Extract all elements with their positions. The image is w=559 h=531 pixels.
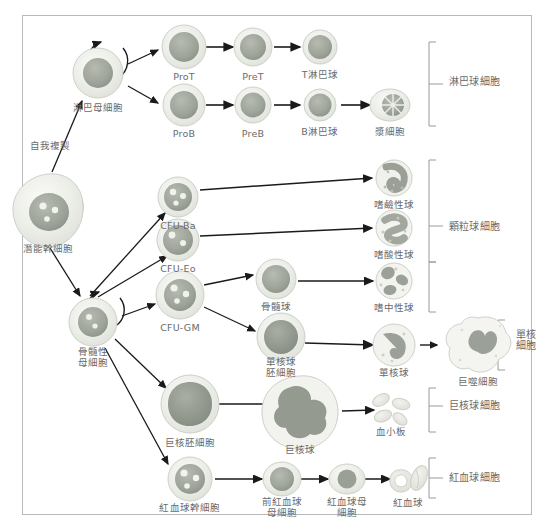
diagram-frame xyxy=(22,15,532,515)
cell-label-myelocyte: 骨髓球 xyxy=(261,301,292,312)
cell-label-neutrophil: 嗜中性球 xyxy=(374,302,415,313)
cell-label-eosinophil: 嗜酸性球 xyxy=(374,249,415,260)
cell-label-plasma-cell: 漿細胞 xyxy=(375,126,406,137)
cell-label-monoblast: 單核球 胚細胞 xyxy=(266,356,297,378)
cell-label-pre-t: PreT xyxy=(242,71,264,82)
cell-label-pre-b: PreB xyxy=(242,128,264,139)
cell-label-proerythroblast: 前紅血球 母細胞 xyxy=(262,496,303,518)
bracket-label-megakaryocytic: 巨核球細胞 xyxy=(449,400,500,411)
cell-label-t-lymphocyte: T淋巴球 xyxy=(302,69,339,80)
bracket-label-erythrocytes: 紅血球細胞 xyxy=(449,472,500,483)
cell-label-pluripotent-stem-cell: 潛能幹細胞 xyxy=(23,243,74,254)
cell-label-cfu-ba: CFU-Ba xyxy=(160,220,196,231)
cell-label-lymphoid-blast: 淋巴母細胞 xyxy=(73,102,124,113)
annotation-self-renewal: 自我複製 xyxy=(30,140,71,151)
bracket-label-monocytes: 單核 細胞 xyxy=(516,329,536,351)
cell-label-b-lymphocyte: B淋巴球 xyxy=(301,126,338,137)
cell-label-pro-t: ProT xyxy=(173,71,195,82)
bracket-label-lymphocytes: 淋巴球細胞 xyxy=(449,76,500,87)
cell-label-monocyte: 單核球 xyxy=(379,367,410,378)
bracket-label-granulocytes: 顆粒球細胞 xyxy=(449,221,500,232)
hematopoiesis-diagram: 自我複製 潛能幹細胞 淋巴母細胞 骨髓性 母細胞 ProT PreT T淋巴球 … xyxy=(0,0,559,531)
cell-label-cfu-gm: CFU-GM xyxy=(160,322,200,333)
cell-label-cfu-eo: CFU-Eo xyxy=(160,263,196,274)
cell-label-red-blood-cell: 紅血球 xyxy=(393,497,424,508)
cell-label-macrophage: 巨噬細胞 xyxy=(458,376,499,387)
cell-label-megakaryoblast: 巨核胚細胞 xyxy=(165,437,216,448)
cell-label-platelets: 血小板 xyxy=(376,426,407,437)
cell-label-erythroblast: 紅血球母 細胞 xyxy=(327,496,368,518)
cell-label-pro-b: ProB xyxy=(173,128,195,139)
cell-label-basophil: 嗜鹼性球 xyxy=(374,199,415,210)
cell-label-myeloid-blast: 骨髓性 母細胞 xyxy=(78,346,109,368)
cell-label-erythrocyte-stem-cell: 紅血球幹細胞 xyxy=(159,502,220,513)
cell-label-megakaryocyte: 巨核球 xyxy=(285,444,316,455)
